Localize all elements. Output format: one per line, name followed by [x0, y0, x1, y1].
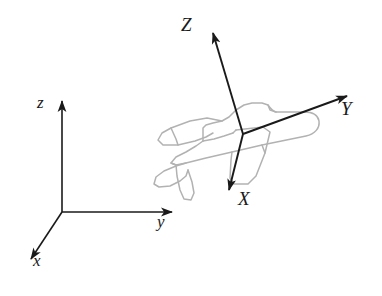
body-axis-y-line — [243, 96, 347, 134]
wing-root-fairing — [233, 130, 236, 133]
tail-edge — [171, 163, 176, 165]
inertial-axis-x-label: x — [33, 252, 41, 269]
rear-fuselage-seam — [262, 145, 265, 153]
diagram-svg — [0, 0, 382, 296]
right-wing — [230, 127, 270, 184]
inertial-frame-axes — [31, 101, 172, 259]
aircraft-outline — [154, 103, 319, 200]
inertial-axis-z-label: z — [37, 94, 44, 111]
body-axis-y-label: Y — [341, 99, 352, 118]
cockpit-notch — [268, 105, 276, 112]
inertial-axis-y-label: y — [157, 213, 165, 230]
body-axis-x-label: X — [238, 189, 250, 208]
body-axis-z-line — [213, 33, 243, 134]
left-wing-crease — [171, 128, 178, 145]
fuselage-upper-edge — [203, 103, 304, 141]
figure-canvas: z y x Z Y X — [0, 0, 382, 296]
horizontal-stabilizer — [154, 163, 188, 187]
body-axis-z-label: Z — [181, 15, 192, 34]
vertical-stabilizer — [176, 165, 194, 200]
left-wing — [158, 118, 222, 145]
